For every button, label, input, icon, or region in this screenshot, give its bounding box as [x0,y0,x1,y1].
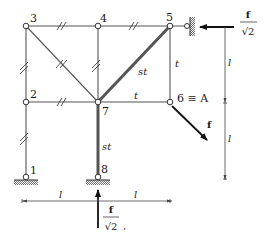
truss-diagram: st st t t 1 2 3 4 5 6 ≡ A 7 8 f √ [0,0,270,242]
horizontal-dimension [22,199,172,203]
node-1 [23,174,29,180]
load-node-5: f √2 [200,9,257,37]
label-t-horizontal: t [134,90,139,101]
trailing-comma: , [123,220,126,231]
node-6 [167,99,173,105]
node-2 [23,99,29,105]
dim-vertical-1: l [228,57,231,68]
label-st-vertical: st [102,141,112,152]
node-label-8: 8 [101,163,108,176]
slash-mark-4-7 [92,60,100,72]
dim-horizontal-2: l [134,189,137,200]
wall-support-5 [170,17,195,36]
load-5-denominator: √2 [242,26,255,37]
load-node-6: f [172,106,212,140]
members-thick [98,26,170,176]
dim-vertical-2: l [228,133,231,144]
label-st-diagonal: st [138,66,148,77]
node-7 [95,99,101,105]
pin-support-8 [86,180,110,185]
load-8-numerator: f [109,204,114,215]
load-5-numerator: f [246,9,251,20]
node-5 [167,23,173,29]
node-label-1: 1 [30,164,37,177]
slash-mark-2-3 [20,62,28,74]
vertical-dimension [223,27,227,180]
node-label-4: 4 [100,12,107,25]
node-label-6: 6 ≡ A [177,92,209,105]
node-label-5: 5 [166,11,173,24]
label-t-vertical: t [175,58,180,69]
double-slash-marks [20,22,138,145]
load-8-denominator: √2 [105,221,118,232]
slash-mark-1-2 [20,133,28,145]
load-6-label: f [207,119,212,130]
node-label-7: 7 [102,105,109,118]
node-8 [95,174,101,180]
node-label-3: 3 [30,12,37,25]
dim-horizontal-1: l [59,189,62,200]
load-node-8: f √2 , [98,190,126,232]
pin-support-1 [14,180,38,185]
node-label-2: 2 [30,88,37,101]
node-3 [23,23,29,29]
arrow-diagonal-icon [172,106,207,140]
